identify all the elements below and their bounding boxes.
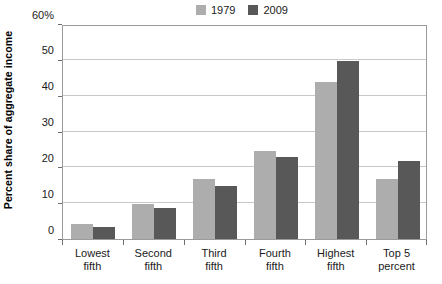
bar-chart: 19792009 Percent share of aggregate inco… (0, 0, 442, 284)
legend-item-label: 1979 (211, 5, 235, 16)
y-tick-label: 20 (8, 152, 54, 163)
y-tick-label: 30 (8, 117, 54, 128)
x-tick-mark (62, 240, 63, 245)
x-category-label-line1: Second (135, 247, 172, 259)
bar-1979[interactable] (193, 179, 215, 239)
x-category-label-line1: Third (202, 247, 227, 259)
x-category-label-line1: Highest (317, 247, 354, 259)
x-category-label-line1: Lowest (75, 247, 110, 259)
legend-item[interactable]: 2009 (248, 5, 287, 16)
x-category-label-line2: fifth (123, 260, 184, 273)
legend-item[interactable]: 1979 (196, 5, 235, 16)
x-tick-mark (184, 240, 185, 245)
y-tick-label: 50 (8, 45, 54, 56)
x-category-label-line2: percent (366, 260, 427, 273)
y-tick-label: 60% (8, 9, 54, 20)
legend-swatch-icon (196, 5, 206, 15)
legend-item-label: 2009 (263, 5, 287, 16)
x-tick-mark (123, 240, 124, 245)
x-tick-mark (366, 240, 367, 245)
bar-1979[interactable] (71, 224, 93, 239)
x-category-label: Lowestfifth (62, 247, 123, 273)
bar-group (306, 26, 367, 239)
x-category-label: Secondfifth (123, 247, 184, 273)
chart-legend: 19792009 (196, 3, 288, 17)
bar-2009[interactable] (398, 161, 420, 239)
x-tick-mark (426, 240, 427, 245)
x-category-label-line2: fifth (245, 260, 306, 273)
y-tick-label: 0 (8, 224, 54, 235)
y-axis-ticks: 0102030405060% (0, 25, 62, 240)
bar-2009[interactable] (337, 61, 359, 239)
x-axis: LowestfifthSecondfifthThirdfifthFourthfi… (62, 240, 427, 284)
x-category-label-line2: fifth (305, 260, 366, 273)
bar-1979[interactable] (254, 151, 276, 240)
legend-swatch-icon (248, 5, 258, 15)
plot-area (62, 25, 427, 240)
x-category-label-line2: fifth (62, 260, 123, 273)
bar-group (124, 26, 185, 239)
x-category-label-line1: Top 5 (383, 247, 410, 259)
bar-1979[interactable] (132, 204, 154, 239)
x-category-label: Highestfifth (305, 247, 366, 273)
y-tick-label: 10 (8, 188, 54, 199)
y-tick-label: 40 (8, 81, 54, 92)
bar-2009[interactable] (154, 208, 176, 239)
bar-group (63, 26, 124, 239)
bar-2009[interactable] (93, 227, 115, 239)
x-category-label: Top 5percent (366, 247, 427, 273)
bar-group (185, 26, 246, 239)
x-category-label-line1: Fourth (259, 247, 291, 259)
bar-1979[interactable] (376, 179, 398, 239)
bar-group (246, 26, 307, 239)
x-category-label: Fourthfifth (245, 247, 306, 273)
x-tick-mark (245, 240, 246, 245)
bar-2009[interactable] (276, 157, 298, 239)
x-category-label: Thirdfifth (184, 247, 245, 273)
bar-2009[interactable] (215, 186, 237, 239)
x-category-label-line2: fifth (184, 260, 245, 273)
bar-group (367, 26, 428, 239)
x-tick-mark (305, 240, 306, 245)
bar-1979[interactable] (315, 82, 337, 239)
